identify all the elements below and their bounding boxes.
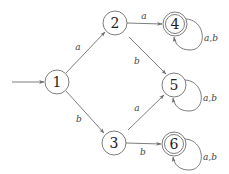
edge-label-2-4: a — [141, 11, 146, 21]
state-6-accepting: 6 — [162, 132, 186, 156]
state-2: 2 — [103, 11, 127, 35]
edge-1-2 — [66, 32, 105, 73]
state-label-5: 5 — [170, 77, 179, 93]
state-label-3: 3 — [110, 135, 119, 151]
edge-label-2-5: b — [134, 56, 140, 66]
edge-3-6 — [126, 143, 161, 144]
state-label-2: 2 — [111, 15, 120, 31]
edge-label-1-2: a — [75, 42, 80, 52]
edge-label-3-5: a — [134, 103, 139, 113]
edge-label-1-3: b — [76, 114, 82, 124]
state-4-accepting: 4 — [163, 12, 187, 36]
state-label-6: 6 — [170, 136, 179, 152]
loop-label-4: a,b — [204, 33, 218, 43]
edge-1-3 — [66, 91, 104, 133]
state-label-1: 1 — [53, 74, 62, 90]
dfa-diagram: a b a b a b a,b a,b a,b 1 2 3 4 5 6 — [0, 0, 229, 174]
loop-label-5: a,b — [203, 93, 217, 103]
state-1: 1 — [45, 70, 69, 94]
state-label-4: 4 — [171, 16, 180, 32]
edge-2-4 — [127, 23, 162, 24]
edge-label-3-6: b — [140, 147, 146, 157]
loop-label-6: a,b — [203, 152, 217, 162]
state-3: 3 — [102, 131, 126, 155]
state-5: 5 — [162, 73, 186, 97]
